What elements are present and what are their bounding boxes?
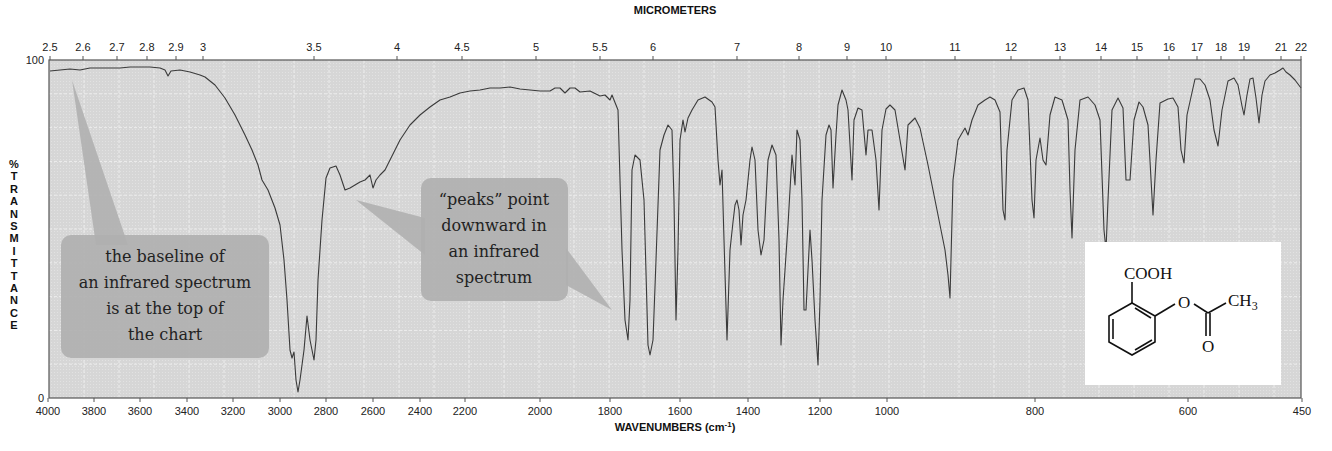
x-tick-label: 3400: [175, 405, 199, 417]
x-tick-label: 4000: [36, 405, 60, 417]
carbonyl-oxygen-label: O: [1202, 337, 1214, 356]
xlabel-main: WAVENUMBERS (cm: [615, 421, 725, 433]
micrometer-tick-label: 16: [1163, 41, 1175, 53]
methyl-subscript: 3: [1252, 299, 1258, 313]
y-axis-letter: T: [11, 270, 18, 282]
callout-baseline-line-2: an infrared spectrum: [79, 273, 251, 292]
y-axis-letter: S: [10, 220, 17, 232]
micrometer-tick-label: 22: [1295, 41, 1307, 53]
x-tick-label: 600: [1179, 405, 1197, 417]
y-axis-letter: A: [10, 282, 18, 294]
micrometer-tick-label: 2.6: [75, 41, 90, 53]
y-axis-letter: T: [11, 257, 18, 269]
y-axis-letter: M: [9, 232, 18, 244]
x-tick-label: 3000: [268, 405, 292, 417]
x-tick-label: 1600: [668, 405, 692, 417]
x-tick-label: 1000: [875, 405, 899, 417]
callout-baseline-line-1: the baseline of: [105, 247, 225, 266]
micrometer-tick-label: 7: [734, 41, 740, 53]
y-axis-letter: A: [10, 195, 18, 207]
micrometer-tick-label: 4: [394, 41, 400, 53]
micrometer-tick-label: 14: [1095, 41, 1107, 53]
y-axis-letter: T: [11, 170, 18, 182]
callout-peaks-line-2: downward in: [441, 216, 547, 235]
y-axis-letter: C: [10, 307, 18, 319]
ir-spectrum-chart: MICROMETERS 2.52.62.72.82.933.544.555.56…: [0, 0, 1332, 451]
x-tick-label: 2200: [453, 405, 477, 417]
micrometer-tick-label: 2.7: [109, 41, 124, 53]
x-tick-label: 2800: [314, 405, 338, 417]
y-axis-letter: R: [10, 183, 18, 195]
wavenumber-ticks: 4000380036003400320030002800260024002200…: [36, 398, 1311, 417]
micrometer-tick-label: 10: [880, 41, 892, 53]
micrometer-tick-label: 5: [533, 41, 539, 53]
callout-peaks-line-3: an infrared: [449, 242, 540, 261]
wavenumbers-axis-title: WAVENUMBERS (cm-1): [615, 420, 736, 433]
callout-peaks-line-4: spectrum: [456, 268, 532, 287]
x-tick-label: 1400: [736, 405, 760, 417]
x-tick-label: 2600: [361, 405, 385, 417]
methyl-text: CH: [1228, 291, 1252, 310]
micrometer-tick-label: 13: [1054, 41, 1066, 53]
x-tick-label: 1200: [808, 405, 832, 417]
x-tick-label: 3200: [221, 405, 245, 417]
x-tick-label: 800: [1026, 405, 1044, 417]
molecule-structure: COOH O CH3 O: [1085, 242, 1281, 385]
x-tick-label: 2400: [408, 405, 432, 417]
y-axis-letter: %: [9, 158, 19, 170]
micrometer-ticks: 2.52.62.72.82.933.544.555.56789101112131…: [42, 41, 1307, 60]
cooh-label: COOH: [1124, 264, 1172, 283]
micrometers-axis-title: MICROMETERS: [634, 4, 717, 16]
callout-peaks-line-1: “peaks” point: [439, 190, 550, 209]
y-axis-letter: N: [10, 208, 18, 220]
micrometer-tick-label: 19: [1238, 41, 1250, 53]
micrometer-tick-label: 4.5: [454, 41, 469, 53]
y-tick-100: 100: [26, 54, 44, 66]
micrometer-tick-label: 2.9: [168, 41, 183, 53]
y-tick-0: 0: [38, 392, 44, 404]
micrometer-tick-label: 2.8: [139, 41, 154, 53]
xlabel-close: ): [732, 421, 736, 433]
x-tick-label: 3800: [82, 405, 106, 417]
micrometer-tick-label: 6: [650, 41, 656, 53]
x-tick-label: 2000: [528, 405, 552, 417]
x-tick-label: 1800: [598, 405, 622, 417]
micrometer-tick-label: 12: [1005, 41, 1017, 53]
y-axis-letter: N: [10, 294, 18, 306]
micrometer-tick-label: 21: [1275, 41, 1287, 53]
callout-baseline-line-3: is at the top of: [106, 299, 225, 318]
micrometer-tick-label: 18: [1215, 41, 1227, 53]
micrometer-tick-label: 11: [949, 41, 960, 53]
x-tick-label: 3600: [128, 405, 152, 417]
y-axis-letter: I: [12, 245, 15, 257]
y-axis-title: %TRANSMITTANCE: [9, 158, 19, 331]
callout-baseline-line-4: the chart: [128, 325, 203, 344]
ester-oxygen-label: O: [1178, 293, 1190, 312]
micrometer-tick-label: 8: [796, 41, 802, 53]
micrometer-tick-label: 5.5: [592, 41, 607, 53]
micrometer-tick-label: 15: [1131, 41, 1143, 53]
micrometer-tick-label: 2.5: [42, 41, 57, 53]
x-tick-label: 450: [1293, 405, 1311, 417]
y-axis-letter: E: [10, 319, 17, 331]
micrometer-tick-label: 3.5: [306, 41, 321, 53]
micrometer-tick-label: 9: [844, 41, 850, 53]
micrometer-tick-label: 3: [200, 41, 206, 53]
micrometer-tick-label: 17: [1191, 41, 1203, 53]
